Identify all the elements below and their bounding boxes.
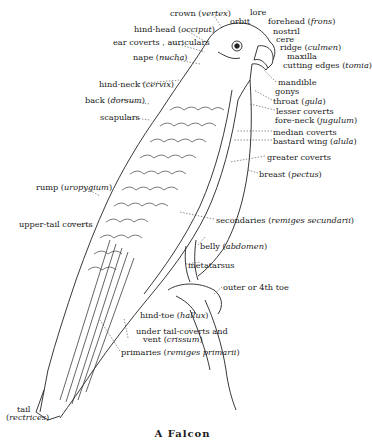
label-cutting-edges: cutting edges (tomia)	[283, 61, 372, 70]
label-breast: breast (pectus)	[259, 170, 322, 179]
label-metatarsus: metatarsus	[188, 261, 235, 270]
label-vent: vent (crissum)	[143, 335, 203, 344]
label-forehead: forehead (frons)	[268, 17, 335, 26]
label-crown: crown (vertex)	[170, 9, 231, 18]
wing-edge	[60, 100, 238, 418]
label-hind-toe: hind-toe (hallux)	[140, 311, 209, 320]
label-rump: rump (uropygium)	[36, 183, 112, 192]
label-hind-head: hind-head (occiput)	[134, 25, 215, 34]
label-primaries: primaries (remiges primarii)	[121, 348, 240, 357]
label-nape: nape (nucha)	[133, 53, 188, 62]
label-ear-coverts: ear coverts , auriculars	[113, 38, 210, 47]
label-outer-toe: outer or 4th toe	[223, 283, 289, 292]
label-scapulars: scapulars	[100, 113, 140, 122]
label-hind-neck: hind-neck (cervix)	[99, 80, 174, 89]
label-rectrices: (rectrices)	[6, 413, 49, 422]
label-bastard-wing: bastard wing (alula)	[273, 137, 357, 146]
label-greater-coverts: greater coverts	[267, 153, 331, 162]
figure-caption: A Falcon	[0, 428, 365, 439]
label-secondaries: secondaries (remiges secundarii)	[216, 216, 354, 225]
label-upper-tail-coverts: upper-tail coverts	[19, 220, 93, 229]
label-throat: throat (gula)	[273, 97, 326, 106]
label-fore-neck: fore-neck (jugulum)	[275, 116, 357, 125]
label-gonys: gonys	[275, 87, 299, 96]
label-lore: lore	[250, 8, 266, 17]
label-back: back (dorsum)	[85, 96, 145, 105]
primary-feathers	[60, 240, 134, 404]
label-orbit: orbit	[230, 17, 250, 26]
label-belly: belly (abdomen)	[200, 242, 267, 251]
